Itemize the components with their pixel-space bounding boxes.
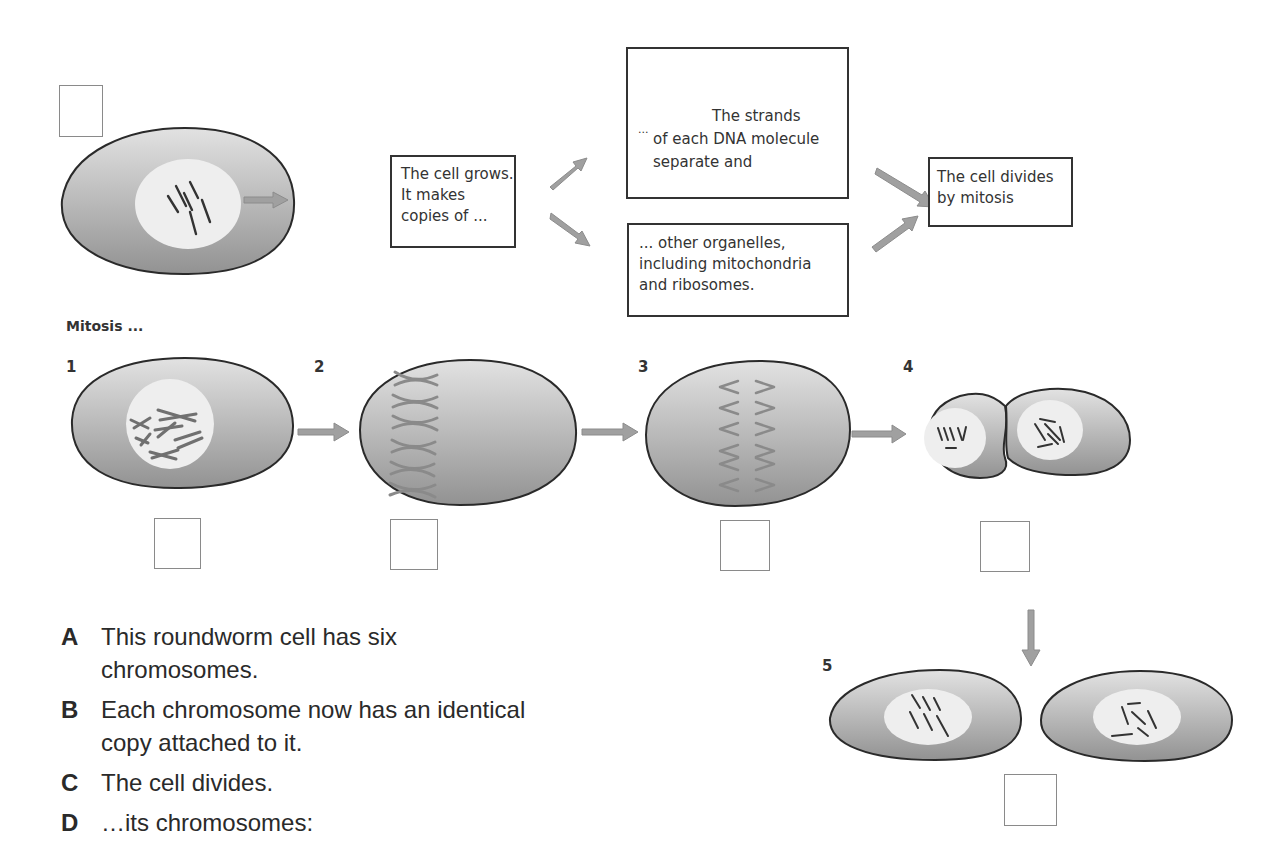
stage-2-cell [360, 360, 576, 505]
arrow-4-5 [1022, 610, 1040, 666]
stage-1-cell [72, 358, 293, 488]
stage-number-4: 4 [903, 358, 913, 376]
answer-box-stage-3[interactable] [720, 520, 770, 571]
statement-text: This roundworm cell has six [101, 620, 525, 653]
answer-box-stage-4[interactable] [980, 521, 1030, 572]
statement-letter: A [61, 620, 78, 653]
statement-list: A This roundworm cell has six chromosome… [61, 620, 525, 846]
box-dna-line: separate and [653, 152, 752, 173]
statement-b[interactable]: B Each chromosome now has an identical c… [61, 693, 525, 759]
statement-c[interactable]: C The cell divides. [61, 766, 525, 799]
statement-letter: D [61, 806, 78, 839]
statement-d[interactable]: D …its chromosomes: [61, 806, 525, 839]
ellipsis: ... [638, 119, 649, 140]
arrow-1-2 [298, 423, 349, 441]
stage-5-cells [830, 670, 1232, 761]
box-cell-grows-line: It makes [401, 185, 514, 206]
answer-box-stage-1[interactable] [154, 518, 201, 569]
arrow-3-4 [852, 425, 906, 443]
stage-number-2: 2 [314, 358, 324, 376]
box-dna-line: The strands [712, 106, 801, 127]
answer-box-stage-2[interactable] [390, 519, 438, 570]
box-organelles-line: including mitochondria [639, 254, 847, 275]
statement-letter: B [61, 693, 78, 726]
statement-text: copy attached to it. [101, 726, 525, 759]
box-organelles-line: ... other organelles, [639, 233, 847, 254]
box-organelles-line: and ribosomes. [639, 275, 847, 296]
box-cell-grows-line: copies of ... [401, 206, 514, 227]
box-cell-grows-line: The cell grows. [401, 164, 514, 185]
statement-text: Each chromosome now has an identical [101, 693, 525, 726]
mitosis-heading: Mitosis ... [66, 318, 143, 334]
box-dna-strands: ... The strands of each DNA molecule sep… [626, 47, 849, 199]
statement-a[interactable]: A This roundworm cell has six chromosome… [61, 620, 525, 686]
arrow-2-3 [582, 423, 638, 441]
statement-text: …its chromosomes: [101, 806, 525, 839]
box-divides-line: by mitosis [937, 188, 1071, 209]
stage-number-1: 1 [66, 358, 76, 376]
statement-text: chromosomes. [101, 653, 525, 686]
box-dna-line: of each DNA molecule [653, 129, 819, 150]
stage-4-cell [924, 389, 1130, 478]
stage-number-5: 5 [822, 657, 832, 675]
box-cell-divides: The cell divides by mitosis [928, 157, 1073, 227]
stage-number-3: 3 [638, 358, 648, 376]
answer-box-stage-5[interactable] [1004, 774, 1057, 826]
statement-text: The cell divides. [101, 766, 525, 799]
box-cell-grows: The cell grows. It makes copies of ... [390, 155, 516, 248]
box-divides-line: The cell divides [937, 167, 1071, 188]
box-other-organelles: ... other organelles, including mitochon… [627, 223, 849, 317]
statement-letter: C [61, 766, 78, 799]
answer-box-initial[interactable] [59, 85, 103, 137]
stage-3-cell [646, 361, 850, 506]
